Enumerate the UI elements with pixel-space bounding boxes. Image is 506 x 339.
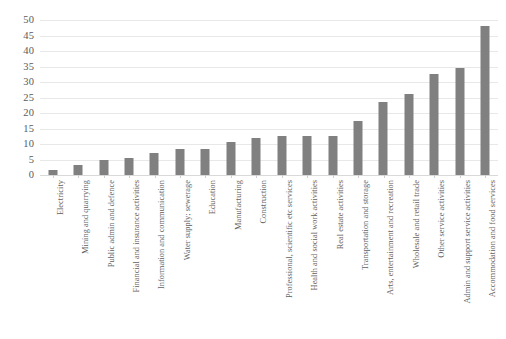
x-tick bbox=[307, 175, 308, 178]
x-label-slot: Accommodation and food services bbox=[473, 180, 498, 338]
y-tick-label: 15 bbox=[0, 124, 34, 135]
x-axis-label: Public admin and defence bbox=[107, 180, 116, 267]
x-label-slot: Transportation and storage bbox=[345, 180, 370, 338]
bar-slot bbox=[422, 20, 447, 175]
bar-slot bbox=[40, 20, 65, 175]
x-label-slot: Health and social work activities bbox=[294, 180, 319, 338]
bar[interactable] bbox=[226, 142, 235, 175]
x-axis-label: Wholesale and retail trade bbox=[412, 180, 421, 268]
x-axis-label: Other service activities bbox=[437, 180, 446, 258]
y-axis: 50454035302520151050 bbox=[0, 0, 40, 195]
x-label-slot: Information and communication bbox=[142, 180, 167, 338]
x-tick bbox=[485, 175, 486, 178]
bar[interactable] bbox=[175, 149, 184, 175]
y-tick-label: 30 bbox=[0, 77, 34, 88]
x-axis-label: Accommodation and food services bbox=[488, 180, 497, 297]
x-tick bbox=[460, 175, 461, 178]
x-label-slot: Construction bbox=[244, 180, 269, 338]
bar[interactable] bbox=[404, 94, 413, 175]
x-tick bbox=[434, 175, 435, 178]
x-tick bbox=[155, 175, 156, 178]
bar[interactable] bbox=[74, 165, 83, 175]
x-axis-label: Electricity bbox=[56, 180, 65, 215]
x-axis-label: Professional, scientific etc services bbox=[285, 180, 294, 298]
bars-group bbox=[40, 20, 498, 175]
bar-slot bbox=[320, 20, 345, 175]
x-label-slot: Real estate activities bbox=[320, 180, 345, 338]
x-tick bbox=[129, 175, 130, 178]
x-label-slot: Wholesale and retail trade bbox=[396, 180, 421, 338]
y-tick-label: 10 bbox=[0, 139, 34, 150]
x-label-slot: Arts, entertainment and recreation bbox=[371, 180, 396, 338]
y-tick-label: 25 bbox=[0, 93, 34, 104]
x-axis-label: Arts, entertainment and recreation bbox=[386, 180, 395, 295]
bar[interactable] bbox=[379, 102, 388, 175]
x-axis-label: Manufacturing bbox=[234, 180, 243, 230]
bar[interactable] bbox=[150, 153, 159, 175]
x-tick bbox=[53, 175, 54, 178]
x-label-slot: Professional, scientific etc services bbox=[269, 180, 294, 338]
x-tick bbox=[205, 175, 206, 178]
bar-slot bbox=[167, 20, 192, 175]
x-label-slot: Water supply; sewerage bbox=[167, 180, 192, 338]
x-axis-label: Mining and quarrying bbox=[81, 180, 90, 254]
bar-slot bbox=[294, 20, 319, 175]
bar[interactable] bbox=[201, 149, 210, 175]
bar-slot bbox=[116, 20, 141, 175]
x-tick bbox=[282, 175, 283, 178]
x-tick bbox=[333, 175, 334, 178]
bar-slot bbox=[447, 20, 472, 175]
bar[interactable] bbox=[125, 158, 134, 175]
x-axis-label: Education bbox=[208, 180, 217, 214]
bar[interactable] bbox=[252, 138, 261, 175]
y-tick-label: 50 bbox=[0, 15, 34, 26]
y-tick-label: 20 bbox=[0, 108, 34, 119]
bar[interactable] bbox=[430, 74, 439, 175]
y-tick-label: 0 bbox=[0, 170, 34, 181]
x-axis-label: Transportation and storage bbox=[361, 180, 370, 270]
bar-slot bbox=[371, 20, 396, 175]
bar-slot bbox=[218, 20, 243, 175]
bar[interactable] bbox=[277, 136, 286, 175]
bar-slot bbox=[91, 20, 116, 175]
x-label-slot: Financial and insurance activities bbox=[116, 180, 141, 338]
bar[interactable] bbox=[99, 160, 108, 175]
x-axis-label: Admin and support service activities bbox=[463, 180, 472, 304]
bar[interactable] bbox=[354, 121, 363, 175]
x-axis-label: Real estate activities bbox=[336, 180, 345, 249]
x-label-slot: Electricity bbox=[40, 180, 65, 338]
x-tick bbox=[384, 175, 385, 178]
bar-chart: 50454035302520151050 ElectricityMining a… bbox=[0, 0, 506, 339]
x-axis-label: Health and social work activities bbox=[310, 180, 319, 290]
x-axis-label: Construction bbox=[259, 180, 268, 224]
x-tick bbox=[358, 175, 359, 178]
y-tick-label: 40 bbox=[0, 46, 34, 57]
bar[interactable] bbox=[455, 68, 464, 175]
bar-slot bbox=[65, 20, 90, 175]
x-axis-label: Information and communication bbox=[157, 180, 166, 289]
x-tick bbox=[256, 175, 257, 178]
x-axis: ElectricityMining and quarryingPublic ad… bbox=[40, 175, 498, 339]
x-axis-label: Financial and insurance activities bbox=[132, 180, 141, 293]
y-tick-label: 35 bbox=[0, 62, 34, 73]
plot-area bbox=[40, 20, 498, 175]
x-tick bbox=[104, 175, 105, 178]
x-label-slot: Public admin and defence bbox=[91, 180, 116, 338]
x-tick bbox=[180, 175, 181, 178]
x-label-slot: Manufacturing bbox=[218, 180, 243, 338]
bar-slot bbox=[396, 20, 421, 175]
bar-slot bbox=[345, 20, 370, 175]
x-label-slot: Other service activities bbox=[422, 180, 447, 338]
x-label-slot: Admin and support service activities bbox=[447, 180, 472, 338]
bar[interactable] bbox=[481, 26, 490, 175]
bar-slot bbox=[244, 20, 269, 175]
bar[interactable] bbox=[328, 136, 337, 175]
x-label-slot: Mining and quarrying bbox=[65, 180, 90, 338]
y-tick-label: 5 bbox=[0, 155, 34, 166]
bar[interactable] bbox=[303, 136, 312, 175]
x-axis-label: Water supply; sewerage bbox=[183, 180, 192, 260]
x-tick bbox=[78, 175, 79, 178]
bar-slot bbox=[193, 20, 218, 175]
x-tick bbox=[231, 175, 232, 178]
y-tick-label: 45 bbox=[0, 31, 34, 42]
